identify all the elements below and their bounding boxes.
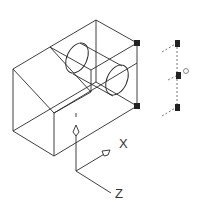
ucs-z-label: Z xyxy=(115,187,123,200)
gizmo-grip-top[interactable] xyxy=(175,40,180,47)
grip-bottom-right[interactable] xyxy=(134,103,140,109)
rotate-handle-icon[interactable] xyxy=(184,69,189,74)
gizmo-grip-mid[interactable] xyxy=(176,72,181,79)
gizmo-grip-bottom[interactable] xyxy=(175,104,180,111)
ucs-x-label: X xyxy=(119,137,128,150)
model-viewport[interactable]: X Z xyxy=(0,0,206,213)
wireframe-drawing[interactable] xyxy=(0,0,206,213)
move-gizmo[interactable] xyxy=(162,40,189,116)
grip-top-right[interactable] xyxy=(134,40,140,46)
